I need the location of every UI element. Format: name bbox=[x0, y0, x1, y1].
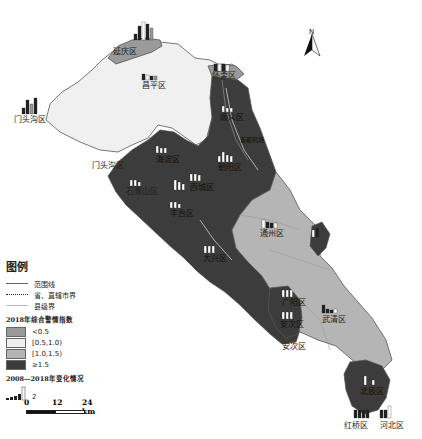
label-huairou: 怀柔区 bbox=[212, 72, 236, 80]
label-mentougou-top: 门头沟区 bbox=[14, 116, 46, 124]
label-shijingshan: 石景山区 bbox=[126, 188, 158, 196]
svg-text:N: N bbox=[309, 28, 314, 36]
scale-segment-white bbox=[55, 410, 85, 414]
label-daxing: 大兴区 bbox=[203, 255, 227, 263]
swatch-icon bbox=[6, 360, 26, 370]
county-border-icon bbox=[6, 305, 28, 306]
legend-line-range: 范围线 bbox=[6, 278, 156, 289]
legend: 图例 范围线 省、直辖市界 县级界 2018年综合警情指数 <0.5 [0.5,… bbox=[6, 258, 156, 401]
label-anci: 安次区 bbox=[280, 321, 304, 329]
label-airport: 首都机场 bbox=[240, 137, 264, 143]
label-shunyi: 顺义区 bbox=[220, 114, 244, 122]
scale-segment-black bbox=[26, 410, 56, 414]
label-changping: 昌平区 bbox=[142, 82, 166, 90]
legend-index-title: 2018年综合警情指数 bbox=[6, 314, 156, 324]
label-hebei: 河北区 bbox=[380, 422, 404, 430]
north-arrow-icon: N bbox=[300, 26, 324, 60]
label-beichen: 北辰区 bbox=[360, 388, 384, 396]
label-guangyang: 广阳区 bbox=[282, 299, 306, 307]
legend-class-3: ≥1.5 bbox=[6, 359, 156, 370]
legend-line-county: 县级界 bbox=[6, 300, 156, 311]
swatch-icon bbox=[6, 338, 26, 348]
north-arrow: N bbox=[300, 26, 324, 64]
label-hongqiao: 红桥区 bbox=[344, 422, 368, 430]
label-yanqing: 延庆区 bbox=[113, 48, 137, 56]
label-haidian: 海淀区 bbox=[156, 156, 180, 164]
legend-change-title: 2008—2018年变化情况 bbox=[6, 373, 156, 383]
label-chaoyang: 朝阳区 bbox=[218, 164, 242, 172]
label-tongzhou: 通州区 bbox=[260, 230, 284, 238]
label-wuqing: 武清区 bbox=[322, 316, 346, 324]
range-line-icon bbox=[6, 283, 28, 284]
label-fengtai: 丰台区 bbox=[170, 210, 194, 218]
legend-class-0: <0.5 bbox=[6, 326, 156, 337]
swatch-icon bbox=[6, 349, 26, 359]
legend-class-1: [0.5,1.0) bbox=[6, 337, 156, 348]
label-anci-lower: 安次区 bbox=[282, 343, 306, 351]
label-xicheng: 西城区 bbox=[190, 184, 214, 192]
legend-title: 图例 bbox=[6, 258, 156, 274]
label-mentougou: 门头沟区 bbox=[92, 162, 124, 170]
swatch-icon bbox=[6, 327, 26, 337]
legend-class-2: [1.0,1.5) bbox=[6, 348, 156, 359]
province-border-icon bbox=[6, 294, 28, 295]
legend-line-province: 省、直辖市界 bbox=[6, 289, 156, 300]
